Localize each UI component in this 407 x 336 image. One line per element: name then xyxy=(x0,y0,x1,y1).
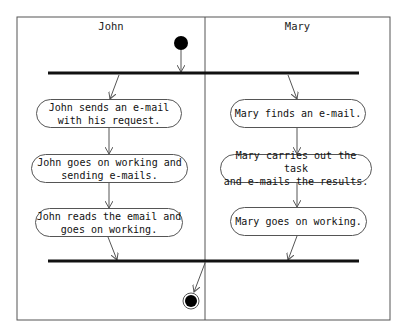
action-john-goes-on-working: John goes on working and sending e-mails… xyxy=(31,154,188,183)
action-mary-finds-email: Mary finds an e-mail. xyxy=(230,99,366,128)
arrow-mary-3-to-join xyxy=(288,236,297,260)
arrow-john-3-to-join xyxy=(108,237,117,260)
swimlane-title-john: John xyxy=(17,20,205,32)
join-bar xyxy=(48,260,359,263)
action-john-reads-email: John reads the email and goes on working… xyxy=(35,208,183,237)
arrow-fork-to-mary-1 xyxy=(288,75,297,99)
arrow-join-to-end xyxy=(194,263,205,292)
fork-bar xyxy=(48,72,359,75)
action-mary-carries-out-task: Mary carries out the task and e-mails th… xyxy=(220,154,372,183)
action-mary-goes-on-working: Mary goes on working. xyxy=(230,207,367,236)
arrow-fork-to-john-1 xyxy=(110,75,119,99)
action-john-sends-email: John sends an e-mail with his request. xyxy=(36,99,182,128)
initial-node xyxy=(174,36,188,50)
final-node-inner xyxy=(185,295,197,307)
swimlane-title-mary: Mary xyxy=(205,20,390,32)
